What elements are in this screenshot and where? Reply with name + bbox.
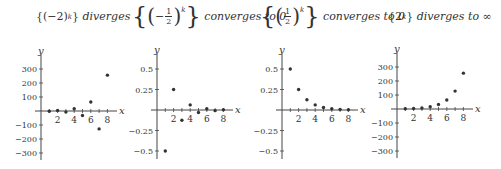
y-axis-label: y bbox=[153, 44, 160, 55]
y-axis-label: y bbox=[278, 44, 285, 55]
y-tick-label: −200 bbox=[15, 135, 37, 144]
y-tick-label: 0.25 bbox=[260, 86, 278, 95]
y-tick-label: −0.25 bbox=[128, 127, 153, 136]
data-point bbox=[48, 110, 51, 113]
y-tick-label: 0.5 bbox=[265, 65, 278, 74]
data-point bbox=[330, 107, 333, 110]
x-tick-label: 4 bbox=[71, 115, 77, 125]
chart-panel-3: yx24680.50.25−0.25−0.5 bbox=[253, 44, 366, 159]
data-point bbox=[213, 109, 216, 112]
data-point bbox=[347, 108, 350, 111]
data-point bbox=[189, 103, 192, 106]
data-point bbox=[73, 107, 76, 110]
x-tick-label: 2 bbox=[171, 114, 177, 124]
data-point bbox=[205, 107, 208, 110]
data-point bbox=[429, 105, 432, 108]
y-tick-label: −0.5 bbox=[259, 147, 278, 156]
x-axis-label: x bbox=[235, 104, 241, 115]
data-point bbox=[222, 108, 225, 111]
x-tick-label: 8 bbox=[221, 114, 227, 124]
data-point bbox=[462, 71, 465, 74]
data-point bbox=[89, 100, 92, 103]
data-point bbox=[64, 110, 67, 113]
y-axis-label: y bbox=[393, 43, 400, 54]
x-tick-label: 4 bbox=[187, 114, 193, 124]
y-tick-label: −300 bbox=[371, 147, 393, 156]
x-tick-label: 6 bbox=[88, 115, 94, 125]
data-point bbox=[437, 103, 440, 106]
y-tick-label: 100 bbox=[22, 93, 37, 102]
data-point bbox=[289, 67, 292, 70]
y-tick-label: 300 bbox=[378, 63, 393, 72]
data-point bbox=[322, 106, 325, 109]
y-tick-label: −100 bbox=[15, 121, 37, 130]
x-tick-label: 4 bbox=[312, 114, 318, 124]
y-tick-label: −300 bbox=[15, 149, 37, 158]
y-tick-label: 0.5 bbox=[140, 65, 153, 74]
y-tick-label: −0.25 bbox=[253, 127, 278, 136]
x-tick-label: 6 bbox=[329, 114, 335, 124]
y-tick-label: 0.25 bbox=[135, 86, 153, 95]
chart-panel-2: yx24680.50.25−0.25−0.5 bbox=[128, 44, 241, 159]
data-point bbox=[106, 73, 109, 76]
data-point bbox=[314, 103, 317, 106]
x-tick-label: 2 bbox=[411, 113, 417, 123]
data-point bbox=[404, 107, 407, 110]
data-point bbox=[180, 119, 183, 122]
x-axis-label: x bbox=[360, 104, 366, 115]
data-point bbox=[305, 98, 308, 101]
data-point bbox=[172, 88, 175, 91]
data-point bbox=[297, 88, 300, 91]
data-point bbox=[97, 127, 100, 130]
y-tick-label: −100 bbox=[371, 119, 393, 128]
data-point bbox=[412, 107, 415, 110]
x-tick-label: 2 bbox=[296, 114, 302, 124]
data-point bbox=[453, 89, 456, 92]
y-tick-label: 300 bbox=[22, 65, 37, 74]
x-tick-label: 6 bbox=[204, 114, 210, 124]
x-axis-label: x bbox=[475, 103, 481, 114]
data-point bbox=[445, 98, 448, 101]
y-tick-label: −200 bbox=[371, 133, 393, 142]
x-tick-label: 4 bbox=[427, 113, 433, 123]
x-axis-label: x bbox=[119, 105, 125, 116]
x-tick-label: 8 bbox=[461, 113, 467, 123]
y-tick-label: 200 bbox=[22, 79, 37, 88]
data-point bbox=[164, 149, 167, 152]
chart-panel-1: yx2468300200100−100−200−300 bbox=[15, 45, 125, 160]
data-point bbox=[338, 108, 341, 111]
data-point bbox=[420, 106, 423, 109]
x-tick-label: 8 bbox=[105, 115, 111, 125]
y-axis-label: y bbox=[37, 45, 44, 56]
x-tick-label: 8 bbox=[346, 114, 352, 124]
x-tick-label: 2 bbox=[55, 115, 61, 125]
chart-panel-4: yx2468300200100−100−200−300 bbox=[371, 43, 481, 158]
y-tick-label: 200 bbox=[378, 77, 393, 86]
data-point bbox=[56, 109, 59, 112]
plots-canvas: yx2468300200100−100−200−300yx24680.50.25… bbox=[0, 0, 501, 169]
data-point bbox=[197, 111, 200, 114]
y-tick-label: −0.5 bbox=[134, 147, 153, 156]
y-tick-label: 100 bbox=[378, 91, 393, 100]
data-point bbox=[81, 114, 84, 117]
x-tick-label: 6 bbox=[444, 113, 450, 123]
